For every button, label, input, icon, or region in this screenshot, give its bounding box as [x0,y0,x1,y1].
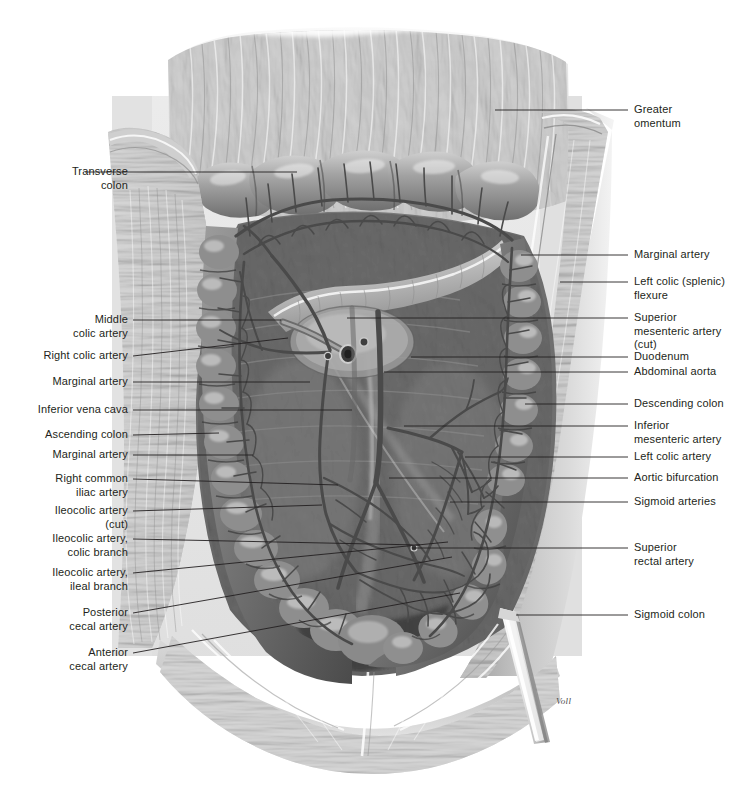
label-aortic-bifurcation: Aortic bifurcation [634,471,736,485]
anatomy-figure: Transverse colonMiddle colic arteryRight… [0,0,742,796]
label-ileocolic-colic-branch: Ileocolic artery, colic branch [35,532,128,559]
label-duodenum: Duodenum [634,350,736,364]
label-marginal-artery-lower: Marginal artery [40,448,128,462]
label-transverse-colon: Transverse colon [30,165,128,192]
label-abdominal-aorta: Abdominal aorta [634,365,736,379]
label-left-colic-artery: Left colic artery [634,450,736,464]
label-right-common-iliac: Right common iliac artery [47,472,128,499]
label-anterior-cecal-artery: Anterior cecal artery [52,646,128,673]
label-inferior-mesenteric: Inferior mesenteric artery [634,419,736,446]
illustration-canvas [0,0,742,796]
label-ileocolic-ileal-branch: Ileocolic artery, ileal branch [35,566,128,593]
label-greater-omentum: Greater omentum [634,103,736,130]
label-inferior-vena-cava: Inferior vena cava [19,403,128,417]
artist-signature: Voll [556,696,571,706]
label-middle-colic-artery: Middle colic artery [55,313,128,340]
label-left-colic-flexure: Left colic (splenic) flexure [634,275,736,302]
label-descending-colon: Descending colon [634,397,736,411]
label-posterior-cecal-artery: Posterior cecal artery [52,606,128,633]
label-superior-rectal-artery: Superior rectal artery [634,541,736,568]
label-marginal-artery-right: Marginal artery [634,248,736,262]
label-ascending-colon: Ascending colon [32,428,128,442]
label-ileocolic-artery-cut: Ileocolic artery (cut) [42,504,128,531]
label-superior-mesenteric-cut: Superior mesenteric artery (cut) [634,311,736,352]
label-sigmoid-colon: Sigmoid colon [634,608,736,622]
label-right-colic-artery: Right colic artery [26,349,128,363]
label-sigmoid-arteries: Sigmoid arteries [634,495,736,509]
label-marginal-artery-upper: Marginal artery [40,375,128,389]
